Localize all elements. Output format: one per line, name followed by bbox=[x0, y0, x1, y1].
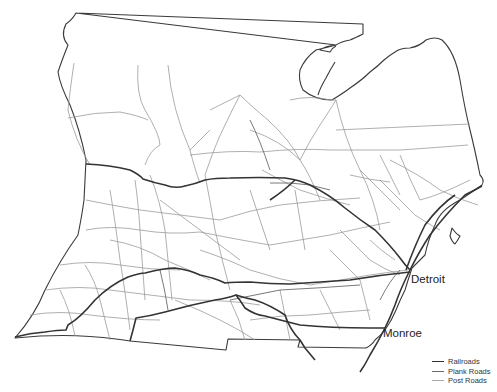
legend-label: Railroads bbox=[448, 357, 480, 366]
legend-item-post-roads: Post Roads bbox=[432, 376, 491, 386]
post-roads-swatch-icon bbox=[432, 380, 444, 381]
plank-roads bbox=[160, 120, 400, 310]
plank-roads-swatch-icon bbox=[432, 371, 444, 372]
bay-coastline bbox=[318, 62, 335, 95]
railroads-swatch-icon bbox=[432, 361, 444, 362]
map-legend: Railroads Plank Roads Post Roads bbox=[432, 357, 491, 386]
legend-label: Plank Roads bbox=[448, 367, 491, 376]
legend-item-plank-roads: Plank Roads bbox=[432, 367, 491, 377]
city-label-monroe: Monroe bbox=[383, 327, 422, 339]
legend-label: Post Roads bbox=[448, 376, 487, 385]
city-label-detroit: Detroit bbox=[411, 273, 445, 285]
lake-st-clair bbox=[450, 228, 460, 244]
legend-item-railroads: Railroads bbox=[432, 357, 491, 367]
road-network-map bbox=[0, 0, 497, 392]
